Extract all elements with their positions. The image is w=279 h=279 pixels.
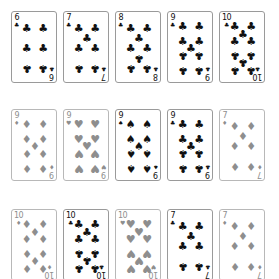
clubs-icon: ♣ [205,264,210,270]
card-index-bottom: 9♣ [205,66,210,80]
clubs-pip-icon: ♣ [89,43,101,54]
clubs-pip-icon: ♣ [193,64,205,75]
hearts-pip-icon: ♥ [89,148,101,159]
clubs-pip-icon: ♣ [193,21,205,32]
clubs-icon: ♣ [170,22,175,28]
clubs-pip-icon: ♣ [37,63,49,74]
card-index-top: 7♣ [170,212,175,226]
card-10-of-clubs[interactable]: 10♣10♣♣♣♣♣♣♣♣♣♣♣ [219,11,265,83]
diamonds-pip-icon: ♦ [37,262,49,273]
diamonds-pip-icon: ♦ [21,233,33,244]
clubs-pip-icon: ♣ [141,63,153,74]
card-board: 6♣6♣♣♣♣♣♣♣7♣7♣♣♣♣♣♣♣♣8♣8♣♣♣♣♣♣♣♣♣9♣9♣♣♣♣… [0,0,279,279]
hearts-pip-icon: ♥ [125,262,137,273]
spades-pip-icon: ♠ [141,148,153,159]
spades-pip-icon: ♠ [141,162,153,173]
clubs-icon: ♣ [153,66,158,72]
card-index-top: 7♦ [222,212,227,226]
card-9-of-hearts[interactable]: 9♥9♥♥♥♥♥♥♥♥♥♥ [63,109,109,181]
hearts-icon: ♥ [101,164,106,170]
clubs-pip-icon: ♣ [177,64,189,75]
clubs-pip-icon: ♣ [21,43,33,54]
card-index-bottom: 8♣ [153,66,158,80]
clubs-pip-icon: ♣ [229,35,241,46]
clubs-pip-icon: ♣ [177,119,189,130]
clubs-pip-icon: ♣ [73,233,85,244]
diamonds-pip-icon: ♦ [21,262,33,273]
card-7-of-clubs[interactable]: 7♣7♣♣♣♣♣♣♣♣ [167,209,213,279]
clubs-icon: ♣ [170,220,175,226]
diamonds-pip-icon: ♦ [21,148,33,159]
hearts-pip-icon: ♥ [89,119,101,130]
clubs-pip-icon: ♣ [177,50,189,61]
spades-pip-icon: ♠ [141,119,153,130]
card-7-of-clubs[interactable]: 7♣7♣♣♣♣♣♣♣♣ [63,11,109,83]
card-7-of-diamonds[interactable]: 7♦7♦♦♦♦♦♦♦♦ [219,109,265,181]
clubs-pip-icon: ♣ [73,262,85,273]
clubs-pip-icon: ♣ [125,63,137,74]
clubs-pip-icon: ♣ [21,63,33,74]
diamonds-icon: ♦ [257,264,262,270]
clubs-pip-icon: ♣ [21,22,33,33]
hearts-pip-icon: ♥ [73,148,85,159]
card-index-bottom: 9♥ [101,164,106,178]
diamonds-icon: ♦ [222,120,227,126]
hearts-pip-icon: ♥ [141,262,153,273]
clubs-icon: ♣ [170,120,175,126]
diamonds-pip-icon: ♦ [21,162,33,173]
diamonds-pip-icon: ♦ [245,241,257,252]
card-rank: 7 [101,72,106,80]
clubs-pip-icon: ♣ [89,262,101,273]
clubs-pip-icon: ♣ [37,43,49,54]
clubs-pip-icon: ♣ [193,50,205,61]
diamonds-icon: ♦ [222,220,227,226]
card-index-top: 6♣ [14,14,19,28]
card-index-bottom: 6♣ [49,66,54,80]
card-index-bottom: 9♦ [49,164,54,178]
clubs-pip-icon: ♣ [177,21,189,32]
card-8-of-clubs[interactable]: 8♣8♣♣♣♣♣♣♣♣♣ [115,11,161,83]
clubs-pip-icon: ♣ [193,148,205,159]
spades-pip-icon: ♠ [125,119,137,130]
clubs-pip-icon: ♣ [193,119,205,130]
card-7-of-diamonds[interactable]: 7♦7♦♦♦♦♦♦♦♦ [219,209,265,279]
card-10-of-diamonds[interactable]: 10♦10♦♦♦♦♦♦♦♦♦♦♦ [11,209,57,279]
diamonds-pip-icon: ♦ [37,233,49,244]
card-rank: 9 [49,170,54,178]
clubs-pip-icon: ♣ [73,63,85,74]
card-rank: 9 [101,170,106,178]
clubs-icon: ♣ [49,66,54,72]
card-index-top: 7♣ [66,14,71,28]
clubs-pip-icon: ♣ [245,35,257,46]
diamonds-pip-icon: ♦ [245,161,257,172]
card-6-of-clubs[interactable]: 6♣6♣♣♣♣♣♣♣ [11,11,57,83]
card-index-bottom: 7♣ [205,264,210,278]
card-index-bottom: 7♦ [257,164,262,178]
clubs-pip-icon: ♣ [193,241,205,252]
card-9-of-spades[interactable]: 9♠9♠♠♠♠♠♠♠♠♠♠ [115,109,161,181]
clubs-pip-icon: ♣ [177,148,189,159]
clubs-pip-icon: ♣ [193,261,205,272]
card-index-top: 9♦ [14,112,19,126]
card-rank: 9 [205,72,210,80]
diamonds-pip-icon: ♦ [245,261,257,272]
card-index-top: 9♣ [170,112,175,126]
diamonds-pip-icon: ♦ [229,261,241,272]
diamonds-icon: ♦ [257,164,262,170]
diamonds-pip-icon: ♦ [229,141,241,152]
hearts-pip-icon: ♥ [73,119,85,130]
spades-pip-icon: ♠ [125,148,137,159]
card-9-of-diamonds[interactable]: 9♦9♦♦♦♦♦♦♦♦♦♦ [11,109,57,181]
clubs-icon: ♣ [101,66,106,72]
diamonds-pip-icon: ♦ [37,162,49,173]
clubs-pip-icon: ♣ [37,22,49,33]
card-10-of-clubs[interactable]: 10♣10♣♣♣♣♣♣♣♣♣♣♣ [63,209,109,279]
card-index-bottom: 7♣ [101,66,106,80]
card-10-of-hearts[interactable]: 10♥10♥♥♥♥♥♥♥♥♥♥♥ [115,209,161,279]
card-9-of-clubs[interactable]: 9♣9♣♣♣♣♣♣♣♣♣♣ [167,109,213,181]
spades-icon: ♠ [118,120,123,126]
card-9-of-clubs[interactable]: 9♣9♣♣♣♣♣♣♣♣♣♣ [167,11,213,83]
card-index-top: 9♣ [170,14,175,28]
spades-icon: ♠ [153,164,158,170]
clubs-icon: ♣ [205,164,210,170]
